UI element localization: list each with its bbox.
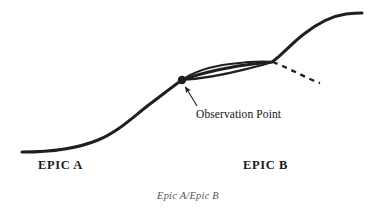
epic-a-label: EPIC A [38,158,83,173]
main-s-curve-path [22,13,362,152]
figure-root: EPIC A EPIC B Observation Point Epic A/E… [0,0,376,220]
observation-point-arrow [186,87,198,106]
figure-caption: Epic A/Epic B [0,190,376,201]
observation-point-label: Observation Point [196,108,281,120]
observation-point-dot [178,76,186,84]
diagram-canvas [0,0,376,220]
epic-b-label: EPIC B [243,158,288,173]
dashed-divergent-path [273,62,320,83]
